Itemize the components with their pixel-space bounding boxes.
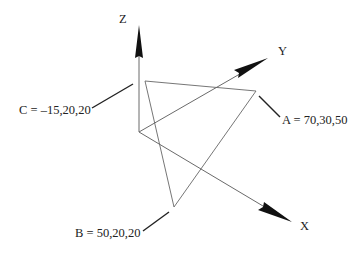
x-axis-arrowhead-icon (258, 202, 292, 222)
leader-line-c (92, 84, 133, 108)
point-label-a: A = 70,30,50 (282, 113, 347, 127)
axes (135, 25, 292, 222)
leader-line-a (259, 96, 280, 117)
leader-line-b (143, 212, 169, 231)
x-axis-label: X (300, 219, 309, 233)
triangle-abc (145, 81, 256, 207)
diagram-svg: Z Y X C = –15,20,20 A = 70,30,50 B = 50,… (0, 0, 363, 256)
leader-lines (92, 84, 280, 231)
y-axis-label: Y (278, 44, 287, 58)
coordinate-diagram: Z Y X C = –15,20,20 A = 70,30,50 B = 50,… (0, 0, 363, 256)
z-axis-arrowhead-icon (135, 25, 143, 58)
z-axis-label: Z (119, 12, 127, 26)
point-label-b: B = 50,20,20 (75, 226, 140, 240)
y-axis-arrowhead-icon (234, 58, 268, 78)
x-axis-line (139, 132, 268, 209)
point-label-c: C = –15,20,20 (19, 103, 91, 117)
